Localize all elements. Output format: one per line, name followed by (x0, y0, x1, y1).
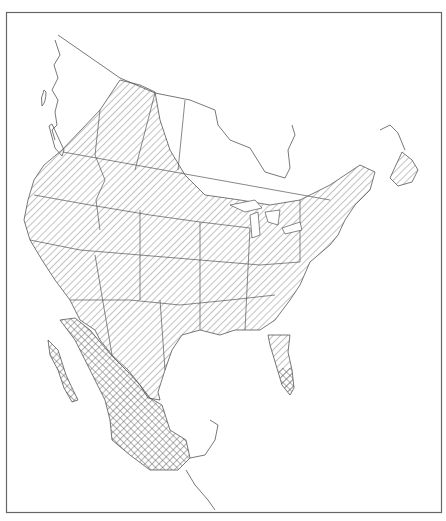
range-map (0, 0, 446, 521)
